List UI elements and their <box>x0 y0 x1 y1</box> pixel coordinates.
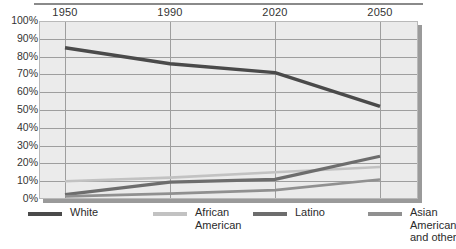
x-axis-tick-2050: 2050 <box>357 6 403 19</box>
y-axis-tick-10: 10% <box>17 175 38 186</box>
legend-label: African American <box>195 206 241 231</box>
y-axis-tick-60: 60% <box>17 86 38 97</box>
y-axis-tick-80: 80% <box>17 51 38 62</box>
series-line-african-american <box>65 167 380 181</box>
x-axis-tick-1950: 1950 <box>42 6 88 19</box>
y-axis-tick-20: 20% <box>17 157 38 168</box>
legend-label: White <box>70 206 98 219</box>
data-series-layer <box>39 21 418 199</box>
x-axis-tick-2020: 2020 <box>252 6 298 19</box>
y-axis-tick-30: 30% <box>17 140 38 151</box>
legend-swatch-icon <box>368 212 402 216</box>
y-axis-tick-100: 100% <box>11 15 38 26</box>
x-axis-tick-labels: 1950199020202050 <box>0 6 425 20</box>
y-axis-tick-40: 40% <box>17 122 38 133</box>
series-line-white <box>65 48 380 107</box>
y-axis-tick-90: 90% <box>17 33 38 44</box>
legend-label: Latino <box>295 206 325 219</box>
x-axis-tick-1990: 1990 <box>147 6 193 19</box>
y-axis-tick-50: 50% <box>17 104 38 115</box>
title-divider-rule <box>34 3 423 5</box>
legend-label: Asian American and other <box>410 206 456 244</box>
legend-swatch-icon <box>153 212 187 216</box>
legend-swatch-icon <box>28 212 62 216</box>
y-axis-tick-0: 0% <box>23 193 38 204</box>
legend-swatch-icon <box>253 212 287 216</box>
chart-legend: WhiteAfrican AmericanLatinoAsian America… <box>0 206 425 249</box>
y-axis-tick-70: 70% <box>17 68 38 79</box>
